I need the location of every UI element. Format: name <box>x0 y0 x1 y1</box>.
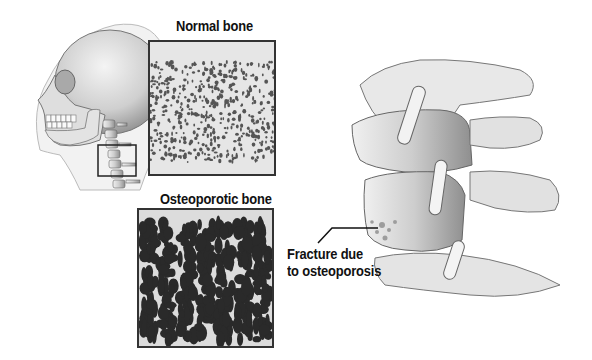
normal-bone-label: Normal bone <box>176 17 253 34</box>
teeth <box>46 115 76 128</box>
skull-illustration <box>0 0 592 360</box>
fracture-label: Fracture due to osteoporosis <box>287 245 381 279</box>
vertebrae-illustration <box>352 60 560 297</box>
normal-bone-texture <box>150 42 276 176</box>
osteoporotic-bone-panel <box>137 208 274 348</box>
osteoporotic-bone-texture <box>139 210 274 348</box>
normal-bone-panel <box>148 40 276 176</box>
fracture-label-line2: to osteoporosis <box>287 262 381 279</box>
eye-socket <box>55 70 75 94</box>
fracture-label-line1: Fracture due <box>287 245 381 262</box>
osteoporotic-bone-label: Osteoporotic bone <box>160 190 272 207</box>
